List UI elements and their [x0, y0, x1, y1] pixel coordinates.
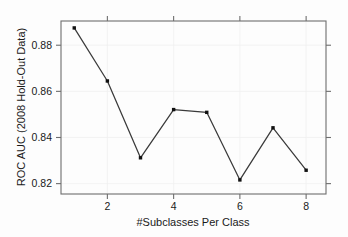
- y-axis-title: ROC AUC (2008 Hold-Out Data): [15, 28, 27, 186]
- y-tick-label: 0.82: [32, 177, 53, 189]
- data-point-marker: [73, 26, 76, 29]
- data-point-marker: [172, 108, 175, 111]
- data-point-marker: [238, 178, 241, 181]
- x-tick-label: 6: [237, 200, 243, 212]
- x-axis-title: #Subclasses Per Class: [136, 216, 250, 228]
- data-point-marker: [205, 111, 208, 114]
- y-tick-label: 0.86: [32, 85, 53, 97]
- data-point-marker: [271, 126, 274, 129]
- data-point-marker: [106, 79, 109, 82]
- y-tick-label: 0.88: [32, 39, 53, 51]
- y-tick-label: 0.84: [32, 131, 53, 143]
- data-point-marker: [304, 169, 307, 172]
- chart-figure: 0.820.840.860.88 2468 #Subclasses Per Cl…: [0, 0, 348, 237]
- data-point-marker: [139, 156, 142, 159]
- roc-auc-line-chart: 0.820.840.860.88 2468 #Subclasses Per Cl…: [0, 0, 348, 237]
- x-tick-label: 4: [171, 200, 177, 212]
- x-tick-label: 2: [104, 200, 110, 212]
- x-tick-label: 8: [303, 200, 309, 212]
